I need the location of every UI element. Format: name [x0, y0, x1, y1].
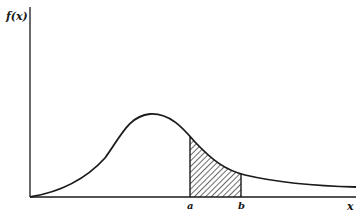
- density-diagram: f(x) x a b: [0, 0, 364, 214]
- y-axis-label: f(x): [5, 10, 28, 23]
- lower-bound-label: a: [187, 200, 193, 211]
- x-axis-label: x: [346, 200, 354, 213]
- upper-bound-label: b: [238, 200, 245, 211]
